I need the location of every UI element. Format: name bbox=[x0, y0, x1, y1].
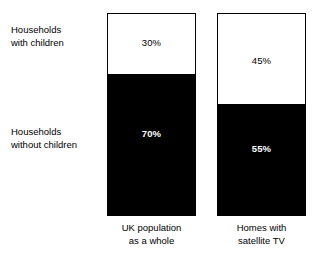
bar-value-satellite-with-children: 45% bbox=[252, 55, 271, 66]
legend-label-households-with-children: Households with children bbox=[11, 24, 103, 49]
bar-segment-uk-without-children: 70% bbox=[108, 74, 195, 215]
bar-value-uk-with-children: 30% bbox=[142, 37, 161, 48]
bar-uk-population: 30% 70% bbox=[107, 13, 196, 216]
bar-satellite-tv: 45% 55% bbox=[217, 13, 306, 216]
axis-caption-satellite-tv: Homes with satellite TV bbox=[206, 222, 317, 247]
stacked-bar-chart: Households with children Households with… bbox=[0, 0, 323, 260]
bar-value-satellite-without-children: 55% bbox=[252, 143, 271, 154]
axis-caption-uk-population: UK population as a whole bbox=[96, 222, 207, 247]
bar-segment-uk-with-children: 30% bbox=[108, 14, 195, 74]
legend-label-households-without-children: Households without children bbox=[11, 126, 103, 151]
bar-segment-satellite-without-children: 55% bbox=[218, 104, 305, 215]
bar-segment-satellite-with-children: 45% bbox=[218, 14, 305, 104]
bar-value-uk-without-children: 70% bbox=[142, 128, 161, 139]
